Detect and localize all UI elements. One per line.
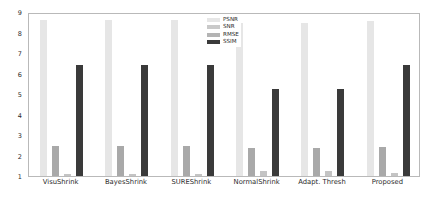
- legend-label: SNR: [223, 24, 235, 30]
- x-axis: VisuShrinkBayesShrinkSUREShrinkNormalShr…: [28, 179, 420, 195]
- bar-rmse: [64, 174, 71, 176]
- y-axis-tick-label: 5: [18, 92, 22, 99]
- bar-psnr: [105, 20, 112, 176]
- bar-psnr: [367, 21, 374, 176]
- legend-swatch-icon: [207, 40, 220, 44]
- bar-snr: [313, 148, 320, 176]
- bar-ssim: [272, 89, 279, 176]
- bar-ssim: [76, 65, 83, 176]
- y-axis-tick-label: 6: [18, 71, 22, 78]
- x-axis-tick-label: BayesShrink: [105, 179, 147, 186]
- bar-ssim: [337, 89, 344, 176]
- x-axis-tick-label: Proposed: [372, 179, 403, 186]
- legend-swatch-icon: [207, 33, 220, 37]
- legend-label: PSNR: [223, 17, 238, 23]
- bar-psnr: [40, 20, 47, 176]
- bar-snr: [52, 146, 59, 176]
- bar-rmse: [260, 171, 267, 176]
- bar-ssim: [141, 65, 148, 176]
- bar-group: [94, 14, 159, 176]
- legend-swatch-icon: [207, 25, 220, 29]
- y-axis-tick-label: 8: [18, 30, 22, 37]
- bar-group: [356, 14, 421, 176]
- legend-item-psnr[interactable]: PSNR: [207, 16, 239, 23]
- y-axis-tick-label: 4: [18, 112, 22, 119]
- bar-group: [290, 14, 355, 176]
- bar-psnr: [301, 23, 308, 176]
- bar-chart: 123456789 VisuShrinkBayesShrinkSUREShrin…: [0, 0, 433, 202]
- y-axis-tick-label: 7: [18, 51, 22, 58]
- y-axis: 123456789: [0, 13, 26, 177]
- x-axis-tick-label: Adapt. Thresh: [298, 179, 345, 186]
- bar-rmse: [129, 174, 136, 176]
- bar-rmse: [195, 174, 202, 176]
- y-axis-tick-label: 2: [18, 153, 22, 160]
- legend-label: RMSE: [223, 32, 239, 38]
- chart-legend: PSNRSNRRMSESSIM: [205, 15, 241, 47]
- legend-label: SSIM: [223, 39, 237, 45]
- y-axis-tick-label: 9: [18, 10, 22, 17]
- bar-snr: [379, 147, 386, 176]
- bar-ssim: [403, 65, 410, 176]
- bar-rmse: [391, 173, 398, 176]
- legend-item-rmse[interactable]: RMSE: [207, 31, 239, 38]
- y-axis-tick-label: 3: [18, 133, 22, 140]
- bar-psnr: [171, 20, 178, 176]
- y-axis-tick-label: 1: [18, 174, 22, 181]
- x-axis-tick-label: NormalShrink: [234, 179, 280, 186]
- legend-item-ssim[interactable]: SSIM: [207, 39, 239, 46]
- bar-group: [29, 14, 94, 176]
- bar-ssim: [207, 65, 214, 176]
- bar-rmse: [325, 171, 332, 176]
- legend-swatch-icon: [207, 18, 220, 22]
- x-axis-tick-label: VisuShrink: [43, 179, 79, 186]
- bar-snr: [248, 148, 255, 176]
- bar-snr: [183, 146, 190, 176]
- x-axis-tick-label: SUREShrink: [171, 179, 211, 186]
- legend-item-snr[interactable]: SNR: [207, 24, 239, 31]
- bar-snr: [117, 146, 124, 176]
